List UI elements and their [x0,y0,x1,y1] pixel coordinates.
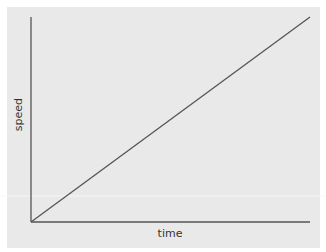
x-axis-label: time [140,227,200,240]
speed-line [31,17,310,222]
y-axis-label: speed [12,95,25,135]
speed-time-graph [0,0,326,252]
